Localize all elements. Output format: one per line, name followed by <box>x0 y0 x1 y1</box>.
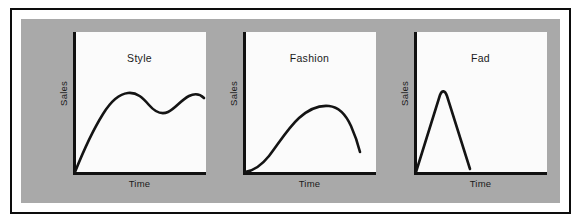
y-axis-label-fad: Sales <box>399 72 410 116</box>
chart-panel-style: Style Sales Time <box>52 32 206 183</box>
figure-gray-panel: Style Sales Time Fashion Sales Time Fad <box>21 19 560 203</box>
x-axis-label-style: Time <box>73 178 206 189</box>
y-axis-label-fashion: Sales <box>228 72 239 116</box>
figure-outer-frame: Style Sales Time Fashion Sales Time Fad <box>10 8 571 214</box>
x-axis-label-fashion: Time <box>243 178 376 189</box>
chart-title-style: Style <box>73 52 206 64</box>
chart-panel-fad: Fad Sales Time <box>393 32 547 183</box>
x-axis-label-fad: Time <box>414 178 547 189</box>
chart-title-fad: Fad <box>414 52 547 64</box>
chart-title-fashion: Fashion <box>243 52 376 64</box>
y-axis-label-style: Sales <box>58 72 69 116</box>
chart-panel-fashion: Fashion Sales Time <box>222 32 376 183</box>
